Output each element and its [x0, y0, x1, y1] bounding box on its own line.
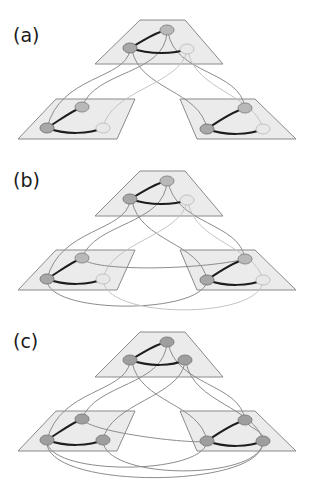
node	[96, 274, 110, 284]
node	[160, 25, 174, 35]
node	[96, 123, 110, 133]
node	[200, 124, 214, 134]
panel-label-b: (b)	[13, 169, 40, 191]
node	[40, 274, 54, 284]
panel-b: (b)	[13, 169, 296, 310]
node	[256, 436, 270, 446]
top-layer-plane	[95, 20, 223, 64]
node	[75, 253, 89, 263]
top-layer-plane	[95, 171, 223, 216]
node	[178, 355, 192, 365]
multilayer-network-figure: (a) (b)	[0, 0, 314, 488]
panel-label-a: (a)	[13, 24, 39, 46]
node	[160, 176, 174, 186]
node	[96, 435, 110, 445]
node	[200, 436, 214, 446]
node	[160, 337, 174, 347]
node	[180, 44, 194, 54]
top-layer-plane	[95, 332, 223, 377]
node	[238, 254, 252, 264]
node	[180, 195, 194, 205]
node	[238, 415, 252, 425]
node	[75, 414, 89, 424]
node	[75, 102, 89, 112]
node	[123, 43, 137, 53]
node	[123, 355, 137, 365]
node	[40, 435, 54, 445]
panel-label-c: (c)	[13, 330, 38, 352]
panel-a: (a)	[13, 20, 296, 139]
node	[123, 194, 137, 204]
node	[256, 124, 270, 134]
node	[238, 103, 252, 113]
node	[256, 275, 270, 285]
panel-c: (c)	[13, 330, 296, 478]
node	[200, 275, 214, 285]
node	[40, 123, 54, 133]
